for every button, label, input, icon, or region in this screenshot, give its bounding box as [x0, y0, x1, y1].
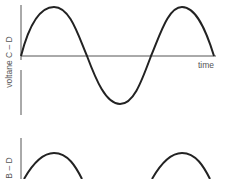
voltage-curve-2 — [24, 153, 82, 179]
x-axis-label: time — [198, 60, 214, 70]
y-axis-label-2: B – D — [4, 157, 14, 178]
voltage-curve-2b — [152, 153, 210, 179]
waveform-diagram: time voltane C – D B – D — [0, 0, 236, 179]
y-axis-label: voltane C – D — [4, 36, 14, 88]
